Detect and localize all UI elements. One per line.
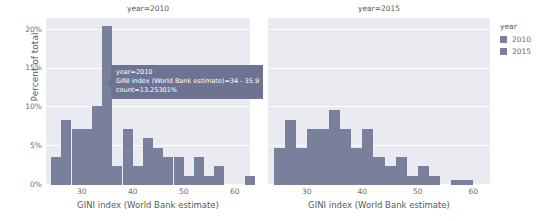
histogram-bar[interactable] xyxy=(143,138,153,185)
histogram-bar[interactable] xyxy=(329,110,340,185)
histogram-bar[interactable] xyxy=(214,166,224,185)
x-tick-label: 60 xyxy=(469,187,479,196)
facet-panel-year-2015: year=201530405060GINI index (World Bank … xyxy=(268,18,490,185)
legend-item-2010[interactable]: 2010 xyxy=(500,35,531,44)
x-tick-label: 40 xyxy=(128,187,138,196)
histogram-bar[interactable] xyxy=(72,129,82,185)
histogram-bar[interactable] xyxy=(245,176,255,185)
y-tick-label: 15% xyxy=(16,64,42,72)
legend-item-label: 2010 xyxy=(512,35,531,44)
legend: year 20102015 xyxy=(500,22,531,59)
tooltip-line-2: GINI index (World Bank estimate)=34 - 35… xyxy=(116,77,259,86)
histogram-bar[interactable] xyxy=(174,157,184,185)
histogram-bar[interactable] xyxy=(385,166,396,185)
legend-item-2015[interactable]: 2015 xyxy=(500,47,531,56)
histogram-bar[interactable] xyxy=(153,148,163,185)
legend-item-label: 2015 xyxy=(512,47,531,56)
x-axis-title: GINI index (World Bank estimate) xyxy=(268,200,490,210)
y-tick-label: 20% xyxy=(16,26,42,34)
histogram-bar[interactable] xyxy=(61,120,71,185)
tooltip-line-1: year=2010 xyxy=(116,68,259,77)
legend-title: year xyxy=(500,22,531,31)
histogram-bar[interactable] xyxy=(112,166,122,185)
legend-swatch-icon xyxy=(500,36,507,43)
x-tick-label: 60 xyxy=(230,187,240,196)
x-tick-label: 50 xyxy=(413,187,423,196)
x-axis: 30405060GINI index (World Bank estimate) xyxy=(46,185,250,199)
histogram-bar[interactable] xyxy=(163,157,173,185)
histogram-bar[interactable] xyxy=(340,129,351,185)
hover-tooltip: year=2010GINI index (World Bank estimate… xyxy=(111,65,263,99)
y-axis: Percent of total 0%5%10%15%20% xyxy=(14,0,42,221)
histogram-bar[interactable] xyxy=(92,106,102,185)
bar-series xyxy=(46,18,250,185)
tooltip-arrow xyxy=(107,79,111,87)
legend-items: 20102015 xyxy=(500,35,531,56)
x-tick-label: 30 xyxy=(302,187,312,196)
x-axis: 30405060GINI index (World Bank estimate) xyxy=(268,185,490,199)
x-axis-title: GINI index (World Bank estimate) xyxy=(46,200,250,210)
histogram-bar[interactable] xyxy=(407,176,418,185)
histogram-bar[interactable] xyxy=(82,129,92,185)
histogram-bar[interactable] xyxy=(307,129,318,185)
facet-panel-year-2010: year=201030405060GINI index (World Bank … xyxy=(46,18,250,185)
x-tick-label: 40 xyxy=(358,187,368,196)
histogram-bar[interactable] xyxy=(429,176,440,185)
histogram-bar[interactable] xyxy=(418,166,429,185)
histogram-bar[interactable] xyxy=(274,148,285,185)
facet-title: year=2015 xyxy=(268,4,490,13)
y-tick-label: 5% xyxy=(16,142,42,150)
histogram-bar[interactable] xyxy=(296,148,307,185)
legend-swatch-icon xyxy=(500,48,507,55)
histogram-bar[interactable] xyxy=(51,157,61,185)
histogram-bar[interactable] xyxy=(194,157,204,185)
bar-series xyxy=(268,18,490,185)
histogram-bar[interactable] xyxy=(204,176,214,185)
histogram-bar[interactable] xyxy=(362,129,373,185)
tooltip-line-3: count=13.25301% xyxy=(116,86,259,95)
histogram-bar[interactable] xyxy=(133,166,143,185)
x-tick-label: 30 xyxy=(77,187,87,196)
x-tick-label: 50 xyxy=(179,187,189,196)
histogram-bar[interactable] xyxy=(351,148,362,185)
histogram-bar[interactable] xyxy=(184,176,194,185)
histogram-bar[interactable] xyxy=(373,157,384,185)
histogram-bar[interactable] xyxy=(396,157,407,185)
chart-root: Percent of total 0%5%10%15%20% year=2010… xyxy=(0,0,544,221)
histogram-bar[interactable] xyxy=(318,129,329,185)
facet-title: year=2010 xyxy=(46,4,250,13)
histogram-bar[interactable] xyxy=(123,129,133,185)
histogram-bar[interactable] xyxy=(102,26,112,185)
histogram-bar[interactable] xyxy=(285,120,296,185)
y-tick-label: 10% xyxy=(16,103,42,111)
y-tick-label: 0% xyxy=(16,181,42,189)
